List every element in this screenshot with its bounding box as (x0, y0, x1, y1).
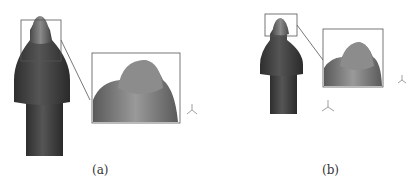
pick-b (260, 14, 323, 114)
caption-a: (a) (92, 163, 109, 177)
inset-a (92, 53, 197, 123)
caption-b: (b) (322, 163, 339, 177)
pick-a (14, 16, 90, 156)
inset-b (322, 29, 406, 111)
figure-graphics (0, 0, 417, 191)
